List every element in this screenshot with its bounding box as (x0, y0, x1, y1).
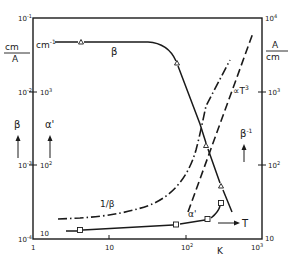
r-tick-1e2: 102 (268, 160, 280, 170)
x-tick-1000: 103 (251, 242, 263, 252)
tick-alpha-10: 10 (40, 230, 49, 238)
curve-beta (55, 42, 232, 212)
r-axis-label: β-1 (240, 127, 253, 139)
square-marker-icon (174, 222, 179, 227)
triangle-marker-icon (219, 184, 224, 189)
t-cubed-label: ∝T3 (233, 84, 249, 96)
tick-beta-1e-1: 10-1 (18, 13, 32, 23)
r-axis-arrow-icon (242, 144, 247, 162)
curve-inverse-beta-label: 1/β (100, 199, 115, 209)
alpha-unit: cm-1 (36, 38, 56, 50)
beta-unit-numerator: cm (5, 42, 19, 52)
r-unit-numerator: A (272, 40, 279, 50)
t-direction-arrow-icon (218, 221, 240, 226)
chart: 10-1 10-2 10-3 10-4 cm A cm-1 103 102 10… (0, 0, 292, 265)
curve-alpha-label: α' (188, 209, 196, 219)
x-unit-label: K (217, 246, 224, 256)
square-marker-icon (78, 228, 83, 233)
beta-axis-arrow-icon (16, 135, 21, 158)
curve-alpha-solid (66, 206, 220, 231)
triangle-marker-icon (175, 61, 180, 66)
r-tick-1e4: 104 (265, 13, 277, 23)
tick-beta-1e-3: 10-3 (18, 160, 32, 170)
tick-alpha-1e2: 102 (40, 160, 52, 170)
curve-beta-label: β (111, 46, 117, 57)
beta-unit-denominator: A (12, 54, 19, 64)
beta-axis-label: β (14, 119, 20, 130)
r-unit-denominator: cm (266, 52, 280, 62)
alpha-axis-label: α' (45, 119, 54, 130)
tick-alpha-1e3: 103 (40, 87, 52, 97)
triangle-marker-icon (79, 40, 84, 45)
t-direction-label: T (241, 218, 249, 229)
square-marker-icon (205, 217, 210, 222)
alpha-axis-arrow-icon (48, 135, 53, 158)
x-tick-1: 1 (31, 244, 35, 252)
triangle-marker-icon (204, 143, 209, 148)
x-tick-10: 10 (105, 244, 114, 252)
square-marker-icon (219, 201, 224, 206)
r-tick-1e3: 103 (268, 87, 280, 97)
tick-beta-1e-4: 10-4 (18, 234, 32, 244)
x-tick-100: 102 (181, 242, 193, 252)
beta-markers (79, 40, 224, 189)
tick-beta-1e-2: 10-2 (18, 87, 32, 97)
r-tick-10: 10 (265, 235, 274, 243)
